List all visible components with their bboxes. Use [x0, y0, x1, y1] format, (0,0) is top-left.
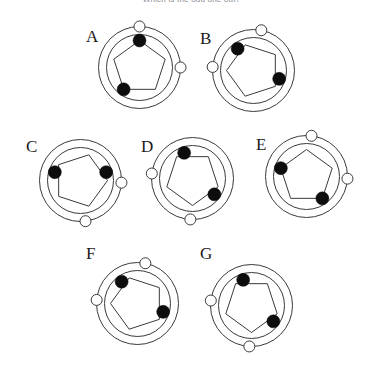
panel-label-b: B: [200, 30, 211, 47]
panel-label-a: A: [86, 28, 98, 45]
pentagon-shape: [58, 154, 107, 205]
marker-bottom: [80, 215, 91, 226]
dot-lower-right: [315, 191, 328, 204]
marker-left: [205, 295, 216, 306]
dot-lower-right: [272, 72, 285, 85]
outer-ring: [39, 139, 121, 221]
dot-upper-left: [231, 42, 244, 55]
marker-top: [255, 24, 266, 35]
dot-upper-left: [177, 146, 190, 159]
page-title: Which is the odd one out?: [0, 0, 383, 4]
panel-label-f: F: [86, 245, 95, 262]
marker-left: [207, 61, 218, 72]
odd-one-out-puzzle: Which is the odd one out? ABCDEFG: [0, 0, 383, 369]
dot-upper-left: [115, 275, 128, 288]
dot-apex: [133, 34, 146, 47]
panel-label-g: G: [200, 245, 212, 262]
dot-lower-right: [266, 314, 279, 327]
marker-bottom: [184, 213, 195, 224]
dot-lower-right: [156, 305, 169, 318]
panel-g[interactable]: [202, 256, 301, 355]
marker-right: [341, 173, 352, 184]
marker-top: [134, 21, 145, 32]
outer-ring: [212, 29, 294, 111]
marker-top: [139, 257, 150, 268]
dot-upper-left: [48, 165, 61, 178]
marker-top: [306, 130, 317, 141]
dot-lower-left: [117, 82, 130, 95]
dot-lower-right: [207, 187, 220, 200]
dot-upper-left: [236, 273, 249, 286]
marker-right: [175, 62, 186, 73]
panel-d[interactable]: [143, 129, 242, 228]
panel-a[interactable]: [90, 18, 189, 117]
outer-ring: [210, 264, 292, 346]
panel-f[interactable]: [88, 254, 187, 353]
marker-bottom: [243, 340, 254, 351]
panel-b[interactable]: [204, 21, 303, 120]
panel-label-c: C: [26, 138, 37, 155]
dot-right: [99, 165, 112, 178]
panel-e[interactable]: [257, 127, 356, 226]
outer-ring: [96, 262, 178, 344]
marker-right: [115, 177, 126, 188]
pentagon-shape: [113, 40, 164, 89]
marker-left: [91, 294, 102, 305]
dot-upper-left: [274, 161, 287, 174]
panel-label-e: E: [256, 136, 266, 153]
panel-c[interactable]: [31, 131, 130, 230]
outer-ring: [265, 135, 347, 217]
outer-ring: [151, 137, 233, 219]
marker-left: [146, 168, 157, 179]
panel-label-d: D: [141, 138, 153, 155]
pentagon-shape: [280, 149, 331, 198]
